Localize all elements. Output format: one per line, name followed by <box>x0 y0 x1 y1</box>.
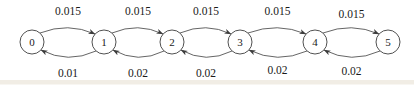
scan-artifact-band <box>0 80 414 85</box>
rate-label-1-to-2: 0.015 <box>125 5 151 17</box>
edge-arrow-0-to-1 <box>40 28 95 34</box>
state-label-4: 4 <box>312 36 318 48</box>
edge-arrow-1-to-2 <box>112 28 163 34</box>
state-label-1: 1 <box>101 36 107 48</box>
rate-label-4-to-5: 0.015 <box>339 8 365 20</box>
rate-label-4-to-3: 0.02 <box>267 64 287 76</box>
diagram-canvas: 0 1 2 3 4 5 0.015 0.015 0.015 0.015 0.01… <box>0 0 414 86</box>
edge-arrow-4-to-5 <box>323 28 379 34</box>
edge-arrow-3-to-4 <box>248 28 306 34</box>
state-label-0: 0 <box>29 36 35 48</box>
edge-arrow-2-to-1 <box>113 50 164 57</box>
rate-label-1-to-0: 0.01 <box>58 67 78 79</box>
rate-label-5-to-4: 0.02 <box>341 65 361 77</box>
edge-arrow-3-to-2 <box>181 50 232 57</box>
rate-label-2-to-3: 0.015 <box>193 5 219 17</box>
edge-arrow-4-to-3 <box>249 50 307 57</box>
state-label-2: 2 <box>169 36 175 48</box>
edge-arrow-5-to-4 <box>324 50 380 57</box>
rate-label-2-to-1: 0.02 <box>128 67 148 79</box>
state-label-5: 5 <box>385 36 391 48</box>
edge-arrow-1-to-0 <box>41 50 96 57</box>
rate-label-3-to-4: 0.015 <box>265 5 291 17</box>
markov-chain-diagram: 0 1 2 3 4 5 0.015 0.015 0.015 0.015 0.01… <box>0 0 414 86</box>
rate-label-0-to-1: 0.015 <box>55 5 81 17</box>
edge-arrow-2-to-3 <box>180 28 231 34</box>
state-label-3: 3 <box>237 36 243 48</box>
rate-label-3-to-2: 0.02 <box>196 67 216 79</box>
